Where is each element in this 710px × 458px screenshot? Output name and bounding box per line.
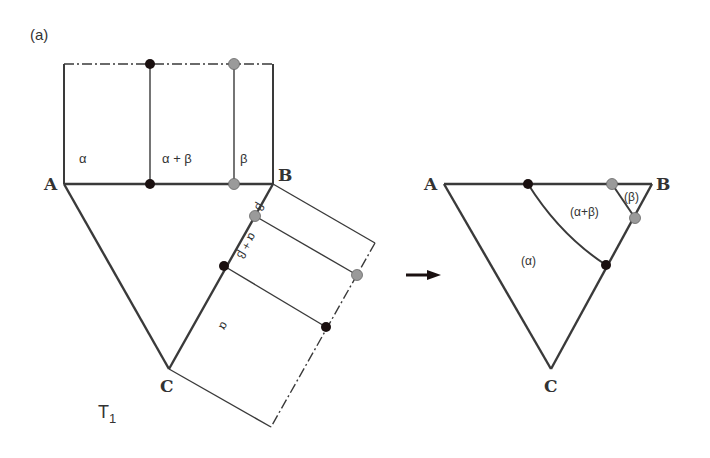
side-region-label-alpha: α bbox=[216, 320, 232, 333]
black-dot bbox=[145, 179, 155, 189]
region-label-alpha-beta: α + β bbox=[162, 151, 192, 166]
panel-label: (a) bbox=[30, 26, 48, 43]
edge-AC bbox=[444, 184, 551, 369]
vertex-label-C: C bbox=[544, 376, 558, 396]
vertex-label-B: B bbox=[278, 165, 292, 185]
vertex-label-B: B bbox=[656, 174, 670, 194]
phase-label-alpha: (α) bbox=[521, 254, 536, 268]
gray-dot bbox=[630, 213, 641, 224]
right-diagram-points bbox=[523, 179, 641, 271]
gray-dot bbox=[229, 179, 240, 190]
arrow-icon bbox=[406, 270, 441, 280]
phase-label-beta: (β) bbox=[624, 190, 639, 204]
projection-label: T1 bbox=[98, 402, 116, 426]
gray-dot bbox=[250, 211, 261, 222]
gray-dot bbox=[352, 270, 363, 281]
edge-AC bbox=[64, 184, 169, 369]
vertex-label-A: A bbox=[43, 174, 58, 194]
region-label-beta: β bbox=[240, 151, 247, 166]
black-dot bbox=[145, 59, 155, 69]
phase-label-alpha-beta: (α+β) bbox=[570, 205, 599, 219]
black-dot bbox=[219, 261, 229, 271]
isothermal-section-diagram bbox=[444, 184, 652, 369]
vertex-label-C: C bbox=[160, 376, 174, 396]
edge-BC bbox=[551, 184, 652, 369]
region-label-alpha: α bbox=[79, 151, 87, 166]
left-diagram-points bbox=[145, 59, 363, 333]
alpha-boundary-curve bbox=[528, 184, 606, 265]
gray-dot bbox=[229, 59, 240, 70]
black-dot bbox=[523, 179, 533, 189]
ternary-phase-diagram-figure: (a) α α + β β β α + β α A B C T bbox=[0, 0, 710, 458]
black-dot bbox=[321, 322, 331, 332]
gray-dot bbox=[607, 179, 618, 190]
unfolded-prism-diagram bbox=[64, 64, 375, 427]
vertex-label-A: A bbox=[423, 174, 438, 194]
black-dot bbox=[601, 260, 611, 270]
